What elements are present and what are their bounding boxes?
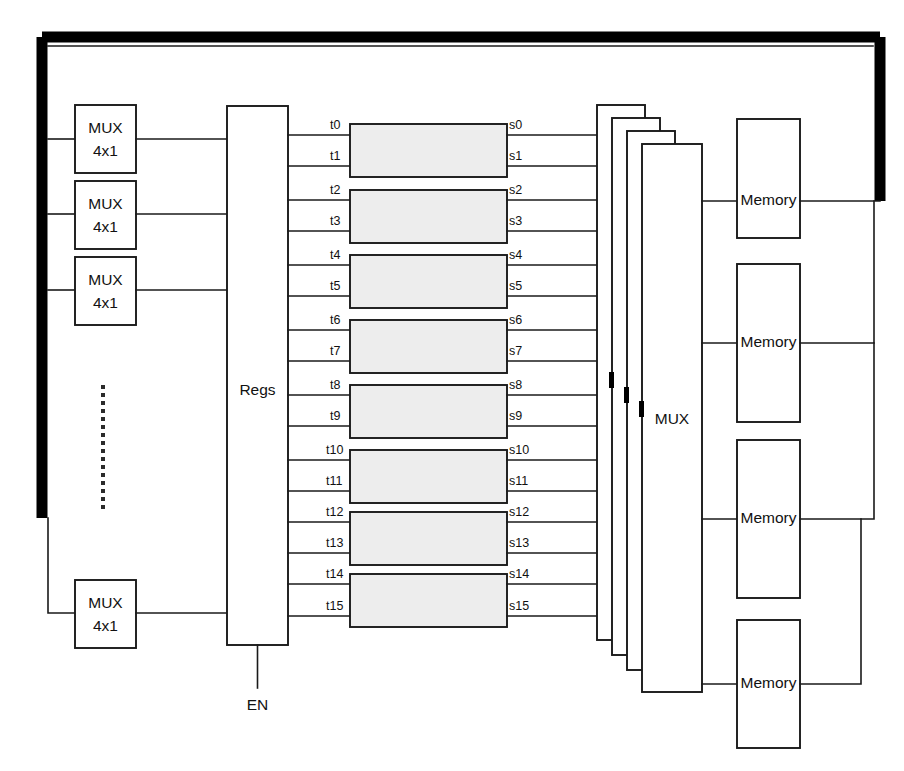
input-mux-group: MUX 4x1 MUX 4x1 MUX 4x1 MUX 4x1 <box>75 105 136 648</box>
mux-select-tick-1 <box>624 387 629 403</box>
input-mux-3-label-bottom: 4x1 <box>93 617 118 634</box>
label-s8: s8 <box>509 378 522 392</box>
input-mux-0[interactable]: MUX 4x1 <box>75 105 136 173</box>
processing-unit-group <box>350 124 507 627</box>
label-s5: s5 <box>509 279 522 293</box>
label-t10: t10 <box>326 443 343 457</box>
mux-input-taps <box>48 139 75 613</box>
memory-3[interactable]: Memory <box>737 620 800 748</box>
regs-block[interactable]: Regs <box>227 106 288 645</box>
label-t7: t7 <box>330 344 340 358</box>
processing-unit-0[interactable] <box>350 124 507 177</box>
regs-enable: EN <box>247 645 269 713</box>
memory-group: Memory Memory Memory Memory <box>737 119 800 748</box>
input-mux-0-label-top: MUX <box>88 119 123 136</box>
label-s13: s13 <box>509 536 529 550</box>
label-t11: t11 <box>326 474 342 488</box>
input-mux-1[interactable]: MUX 4x1 <box>75 181 136 249</box>
label-s4: s4 <box>509 248 522 262</box>
regs-label: Regs <box>239 381 275 398</box>
regs-enable-label: EN <box>247 696 269 713</box>
output-mux-stack: MUX <box>597 105 702 692</box>
label-s7: s7 <box>509 344 522 358</box>
memory-2-label: Memory <box>741 509 797 526</box>
label-t2: t2 <box>330 183 340 197</box>
processing-unit-2[interactable] <box>350 255 507 308</box>
t-signal-labels: t0 t1 t2 t3 t4 t5 t6 t7 t8 t9 t10 t11 t1… <box>326 118 343 613</box>
label-s14: s14 <box>509 567 529 581</box>
processing-unit-1[interactable] <box>350 190 507 243</box>
label-t5: t5 <box>330 279 340 293</box>
label-s12: s12 <box>509 505 529 519</box>
s-signal-labels: s0 s1 s2 s3 s4 s5 s6 s7 s8 s9 s10 s11 s1… <box>509 118 529 613</box>
label-t14: t14 <box>326 567 343 581</box>
memory-3-label: Memory <box>741 674 797 691</box>
memory-0-box[interactable] <box>737 119 800 238</box>
input-mux-3-box[interactable] <box>75 580 136 648</box>
regs-box[interactable] <box>227 106 288 645</box>
label-t4: t4 <box>330 248 340 262</box>
processing-unit-4[interactable] <box>350 385 507 438</box>
mux-to-regs-wires <box>136 139 227 613</box>
label-t1: t1 <box>330 149 340 163</box>
input-mux-3-label-top: MUX <box>88 594 123 611</box>
label-t3: t3 <box>330 214 340 228</box>
mux-select-tick-2 <box>639 401 644 417</box>
input-mux-0-label-bottom: 4x1 <box>93 142 118 159</box>
label-s1: s1 <box>509 149 522 163</box>
label-s10: s10 <box>509 443 529 457</box>
input-mux-1-label-bottom: 4x1 <box>93 218 118 235</box>
label-s0: s0 <box>509 118 522 132</box>
mux-to-memory-wires <box>702 201 737 684</box>
wire-memory2-return <box>800 343 874 519</box>
output-mux-label: MUX <box>655 410 690 427</box>
processing-unit-5[interactable] <box>350 450 507 503</box>
label-t8: t8 <box>330 378 340 392</box>
input-mux-0-box[interactable] <box>75 105 136 173</box>
input-mux-3[interactable]: MUX 4x1 <box>75 580 136 648</box>
memory-return-bus <box>800 201 880 684</box>
processing-unit-3[interactable] <box>350 320 507 373</box>
input-mux-2-label-top: MUX <box>88 271 123 288</box>
memory-1[interactable]: Memory <box>737 264 800 422</box>
label-t12: t12 <box>326 505 343 519</box>
vertical-ellipsis-icon <box>101 385 105 509</box>
memory-1-label: Memory <box>741 333 797 350</box>
input-mux-2[interactable]: MUX 4x1 <box>75 257 136 325</box>
label-t9: t9 <box>330 409 340 423</box>
input-mux-2-box[interactable] <box>75 257 136 325</box>
memory-0-label: Memory <box>741 191 797 208</box>
label-t15: t15 <box>326 599 343 613</box>
block-diagram-canvas: MUX 4x1 MUX 4x1 MUX 4x1 MUX 4x1 <box>0 0 904 771</box>
label-s3: s3 <box>509 214 522 228</box>
label-t6: t6 <box>330 313 340 327</box>
tap-mux-3 <box>48 518 75 613</box>
memory-2[interactable]: Memory <box>737 440 800 598</box>
label-t13: t13 <box>326 536 343 550</box>
wire-memory1-return <box>800 201 874 343</box>
label-s11: s11 <box>509 474 528 488</box>
input-mux-1-label-top: MUX <box>88 195 123 212</box>
input-mux-1-box[interactable] <box>75 181 136 249</box>
processing-unit-6[interactable] <box>350 512 507 565</box>
label-t0: t0 <box>330 118 340 132</box>
processing-unit-7[interactable] <box>350 574 507 627</box>
label-s6: s6 <box>509 313 522 327</box>
mux-select-tick-0 <box>609 372 614 388</box>
label-s9: s9 <box>509 409 522 423</box>
label-s2: s2 <box>509 183 522 197</box>
label-s15: s15 <box>509 599 529 613</box>
input-mux-2-label-bottom: 4x1 <box>93 294 118 311</box>
wire-memory3-return <box>800 519 861 684</box>
diagram-root: MUX 4x1 MUX 4x1 MUX 4x1 MUX 4x1 <box>0 0 904 771</box>
memory-0[interactable]: Memory <box>737 119 800 238</box>
